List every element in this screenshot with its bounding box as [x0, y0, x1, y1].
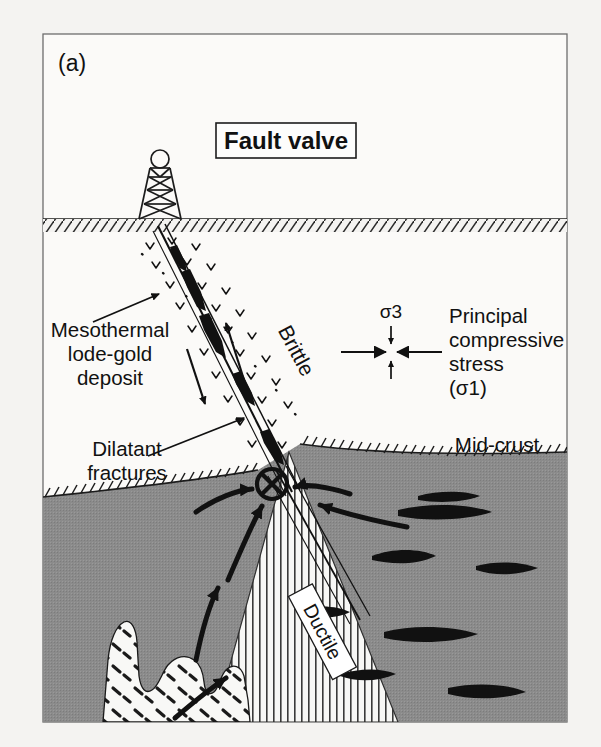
deposit-label-line2: lode-gold	[68, 342, 152, 365]
sigma3-label: σ3	[380, 301, 402, 322]
figure-title: Fault valve	[224, 127, 348, 154]
principal-line3: stress	[449, 352, 504, 375]
principal-line1: Principal	[449, 304, 528, 327]
fractures-label-group: Dilatant fractures	[87, 437, 167, 484]
fractures-label-line2: fractures	[87, 461, 167, 484]
midcrust-label: Mid-crust	[455, 433, 540, 456]
panel-label: (a)	[58, 50, 86, 76]
principal-line2: compressive	[449, 328, 564, 351]
figure-page: Mid-crust Brittle Ductile Mesothermal lo…	[0, 0, 601, 747]
ground-surface	[43, 219, 567, 232]
fault-valve-cross-section: Mid-crust Brittle Ductile Mesothermal lo…	[0, 0, 601, 747]
principal-line4: (σ1)	[449, 376, 487, 399]
deposit-label-line1: Mesothermal	[51, 318, 170, 341]
deposit-label-line3: deposit	[77, 366, 143, 389]
fractures-label-line1: Dilatant	[92, 437, 162, 460]
title-box: Fault valve	[216, 123, 356, 158]
